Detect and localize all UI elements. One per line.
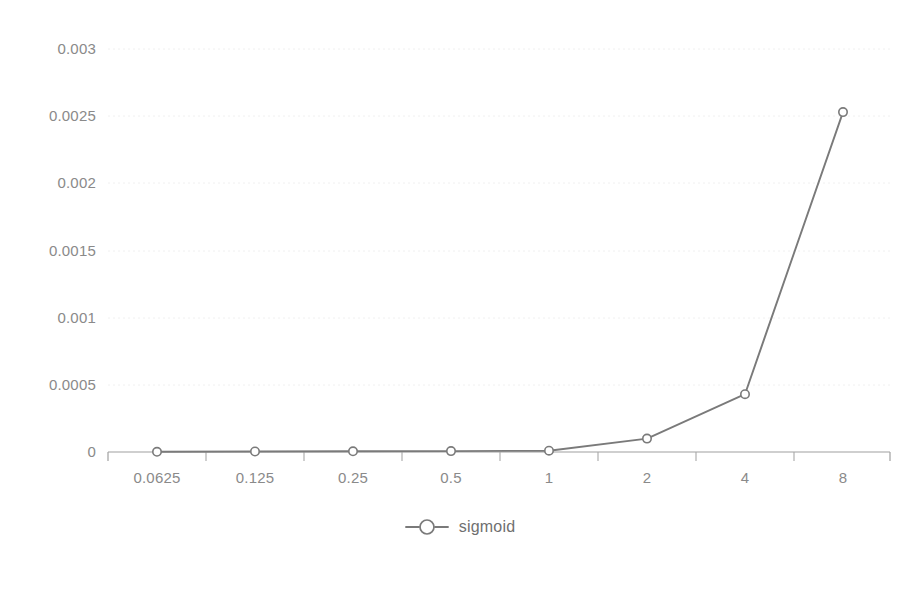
data-point-marker <box>349 447 357 455</box>
circle-open-marker-icon <box>404 518 450 536</box>
data-point-marker <box>839 108 847 116</box>
y-tick-label: 0.0005 <box>0 377 96 393</box>
x-tick-label: 4 <box>695 470 795 486</box>
data-point-marker <box>741 390 749 398</box>
data-point-marker <box>251 447 259 455</box>
x-tick-label: 8 <box>793 470 893 486</box>
y-tick-label: 0.0015 <box>0 243 96 259</box>
chart-plot-area <box>0 0 919 595</box>
data-point-marker <box>153 448 161 456</box>
y-tick-label: 0.002 <box>0 175 96 191</box>
x-tick-label: 1 <box>499 470 599 486</box>
x-axis-line <box>108 452 890 461</box>
chart-legend: sigmoid <box>0 518 919 536</box>
x-tick-label: 0.25 <box>303 470 403 486</box>
y-tick-label: 0.003 <box>0 41 96 57</box>
data-point-marker <box>643 434 651 442</box>
series-line-sigmoid <box>157 112 843 452</box>
x-tick-label: 0.125 <box>205 470 305 486</box>
y-tick-label: 0 <box>0 444 96 460</box>
y-tick-label: 0.0025 <box>0 108 96 124</box>
chart-container: 0.003 0.0025 0.002 0.0015 0.001 0.0005 0… <box>0 0 919 595</box>
legend-item-label: sigmoid <box>459 518 516 536</box>
data-point-marker <box>447 447 455 455</box>
x-tick-label: 2 <box>597 470 697 486</box>
data-point-marker <box>545 447 553 455</box>
gridlines <box>108 49 890 385</box>
y-tick-label: 0.001 <box>0 310 96 326</box>
x-tick-label: 0.5 <box>401 470 501 486</box>
x-axis-ticks <box>206 452 794 461</box>
x-tick-label: 0.0625 <box>107 470 207 486</box>
series-markers-sigmoid <box>153 108 847 456</box>
